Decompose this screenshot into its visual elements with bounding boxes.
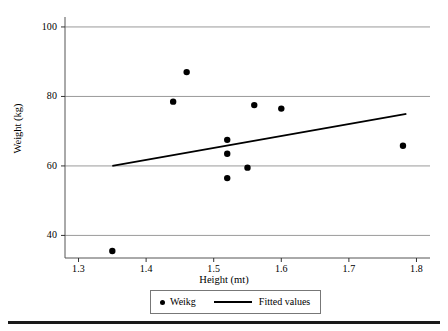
legend-label-weikg: Weikg bbox=[170, 297, 196, 307]
y-tick-label: 80 bbox=[23, 91, 57, 101]
fitted-values-line bbox=[112, 114, 406, 166]
data-point bbox=[224, 137, 230, 143]
legend-entry-fitted-values: Fitted values bbox=[214, 297, 310, 307]
data-point bbox=[278, 105, 284, 111]
data-point bbox=[109, 248, 115, 254]
axis-lines bbox=[65, 17, 430, 258]
x-tick-label: 1.7 bbox=[332, 264, 366, 274]
y-tick-label: 60 bbox=[23, 161, 57, 171]
x-axis-title: Height (mt) bbox=[0, 274, 448, 285]
x-tick-label: 1.4 bbox=[129, 264, 163, 274]
y-axis-title: Weight (kg) bbox=[12, 79, 23, 179]
x-tick-label: 1.8 bbox=[399, 264, 433, 274]
gridlines bbox=[65, 27, 430, 235]
legend-label-fitted-values: Fitted values bbox=[259, 297, 310, 307]
axis-tick-marks bbox=[61, 27, 416, 262]
chart-legend: Weikg Fitted values bbox=[150, 290, 321, 314]
x-tick-label: 1.5 bbox=[197, 264, 231, 274]
y-tick-label: 40 bbox=[23, 230, 57, 240]
regression-line bbox=[112, 114, 406, 166]
x-tick-label: 1.6 bbox=[264, 264, 298, 274]
legend-entry-weikg: Weikg bbox=[160, 297, 196, 307]
data-point bbox=[244, 164, 250, 170]
data-point bbox=[170, 98, 176, 104]
data-point bbox=[183, 69, 189, 75]
y-tick-label: 100 bbox=[23, 22, 57, 32]
data-point bbox=[224, 151, 230, 157]
dot-marker-icon bbox=[160, 300, 165, 305]
data-point bbox=[251, 102, 257, 108]
x-tick-label: 1.3 bbox=[62, 264, 96, 274]
bottom-divider-rule bbox=[8, 321, 440, 324]
data-point bbox=[224, 175, 230, 181]
line-marker-icon bbox=[214, 301, 252, 303]
scatter-plot-figure: 406080100 1.31.41.51.61.71.8 Weight (kg)… bbox=[0, 0, 448, 331]
data-point bbox=[400, 143, 406, 149]
